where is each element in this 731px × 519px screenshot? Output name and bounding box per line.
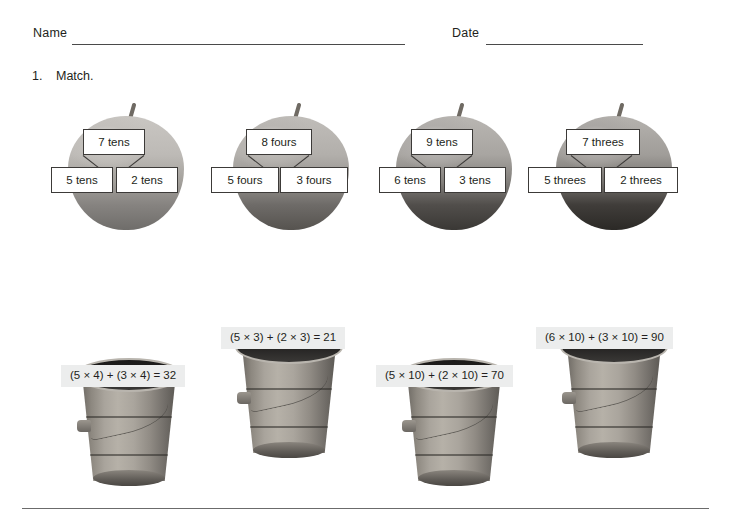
bucket-band-lower: [415, 454, 493, 456]
bucket-equation-label[interactable]: (6 × 10) + (3 × 10) = 90: [536, 327, 673, 349]
bond-total-box[interactable]: 7 tens: [83, 129, 145, 155]
bond-total-box[interactable]: 9 tens: [411, 129, 473, 155]
bucket-handle-grip: [237, 392, 251, 404]
bond-part-left-box[interactable]: 5 fours: [211, 167, 279, 193]
bucket-handle-grip: [77, 420, 91, 432]
bucket-equation-label[interactable]: (5 × 10) + (2 × 10) = 70: [376, 365, 513, 387]
bucket-bottom-shape: [253, 442, 325, 458]
bucket-equation-label[interactable]: (5 × 3) + (2 × 3) = 21: [221, 327, 345, 349]
bucket-bottom-shape: [418, 470, 490, 486]
bond-part-right-box[interactable]: 2 threes: [604, 167, 678, 193]
bond-part-left-box[interactable]: 5 tens: [51, 167, 113, 193]
bucket-handle-grip: [402, 420, 416, 432]
bucket-band-lower: [90, 454, 168, 456]
bucket-expression-row: (5 × 4) + (3 × 4) = 32 (5 × 3) + (2 × 3)…: [0, 0, 731, 519]
bond-part-right-box[interactable]: 2 tens: [116, 167, 178, 193]
bond-part-left-box[interactable]: 5 threes: [528, 167, 602, 193]
footer-divider: [22, 508, 709, 509]
bucket-band-lower: [575, 426, 653, 428]
bucket-bottom-shape: [578, 442, 650, 458]
bond-part-right-box[interactable]: 3 fours: [280, 167, 348, 193]
bond-part-left-box[interactable]: 6 tens: [379, 167, 441, 193]
bucket-equation-label[interactable]: (5 × 4) + (3 × 4) = 32: [61, 365, 185, 387]
bucket-icon: [560, 330, 668, 455]
bond-total-box[interactable]: 8 fours: [246, 129, 312, 155]
bond-part-right-box[interactable]: 3 tens: [444, 167, 506, 193]
bucket-icon: [235, 330, 343, 455]
bucket-band-lower: [250, 426, 328, 428]
bucket-bottom-shape: [93, 470, 165, 486]
bond-total-box[interactable]: 7 threes: [566, 129, 640, 155]
bucket-handle-grip: [562, 392, 576, 404]
